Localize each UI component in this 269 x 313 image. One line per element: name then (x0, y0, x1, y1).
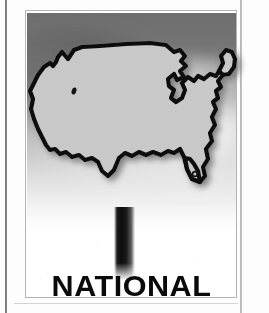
scanned-page: NATIONAL (0, 0, 269, 313)
page-gutter-rule-left (5, 0, 7, 313)
national-caption: NATIONAL (24, 269, 239, 303)
us-map-shape-group (30, 43, 235, 182)
maine-northeast-path (219, 50, 235, 75)
figure-frame: NATIONAL (25, 10, 237, 298)
page-bottom-rule (14, 303, 238, 304)
us-map-silhouette (22, 19, 246, 224)
us-map-svg (22, 19, 246, 224)
